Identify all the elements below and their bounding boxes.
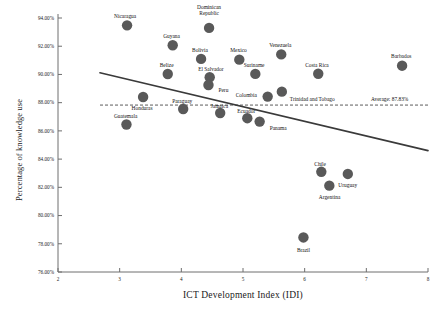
- data-point[interactable]: [324, 180, 334, 190]
- data-point-label: Uruguay: [338, 182, 357, 188]
- y-tick-label: 78.00%: [14, 241, 54, 247]
- data-point-label: Brazil: [297, 247, 310, 253]
- data-point-label: Honduras: [132, 105, 153, 111]
- data-point[interactable]: [138, 92, 148, 102]
- x-tick-label: 8: [416, 276, 440, 282]
- x-tick-label: 7: [354, 276, 378, 282]
- data-point-label: Peru: [218, 87, 228, 93]
- data-point-label: Bolivia: [192, 47, 208, 53]
- y-tick-label: 94.00%: [14, 15, 54, 21]
- scatter-chart: Percentage of knowledge use ICT Developm…: [0, 0, 444, 318]
- data-point[interactable]: [122, 20, 132, 30]
- data-point-label: Nicaragua: [114, 13, 136, 19]
- data-point-label: Jamaica: [211, 103, 228, 109]
- x-tick-label: 5: [231, 276, 255, 282]
- x-tick-label: 6: [293, 276, 317, 282]
- trend-line: [100, 73, 428, 151]
- y-tick-label: 88.00%: [14, 99, 54, 105]
- data-point-label: Suriname: [244, 62, 265, 68]
- y-tick-label: 80.00%: [14, 212, 54, 218]
- data-point[interactable]: [250, 69, 260, 79]
- data-point[interactable]: [316, 167, 326, 177]
- data-point-label: Mexico: [230, 47, 246, 53]
- data-point[interactable]: [204, 23, 214, 33]
- data-point[interactable]: [298, 232, 308, 242]
- data-point-label: Colombia: [236, 92, 257, 98]
- data-point-label: Belize: [160, 62, 174, 68]
- y-tick-label: 90.00%: [14, 71, 54, 77]
- data-point[interactable]: [262, 91, 272, 101]
- data-point-label: Barbados: [391, 53, 411, 59]
- x-tick-label: 2: [46, 276, 70, 282]
- data-point[interactable]: [196, 54, 206, 64]
- y-tick-label: 92.00%: [14, 43, 54, 49]
- data-point[interactable]: [343, 169, 353, 179]
- data-point[interactable]: [215, 108, 225, 118]
- y-tick-label: 84.00%: [14, 156, 54, 162]
- data-point[interactable]: [121, 119, 131, 129]
- data-point-label: Chile: [314, 161, 326, 167]
- y-tick-label: 82.00%: [14, 184, 54, 190]
- data-point-label: Costa Rica: [305, 62, 329, 68]
- data-point-label: DominicanRepublic: [197, 4, 221, 16]
- data-point[interactable]: [397, 60, 407, 70]
- data-point[interactable]: [203, 80, 213, 90]
- x-axis-label: ICT Development Index (IDI): [183, 290, 303, 300]
- data-point[interactable]: [277, 86, 287, 96]
- data-point-label: Ecuador: [237, 108, 255, 114]
- data-point[interactable]: [254, 116, 264, 126]
- data-point[interactable]: [242, 113, 252, 123]
- data-point[interactable]: [313, 69, 323, 79]
- x-tick-label: 3: [108, 276, 132, 282]
- chart-canvas: [0, 0, 444, 318]
- data-point-label: Trinidad and Tobago: [290, 96, 335, 102]
- y-tick-label: 76.00%: [14, 269, 54, 275]
- y-tick-label: 86.00%: [14, 128, 54, 134]
- data-point-label: Argentina: [319, 194, 340, 200]
- data-point[interactable]: [178, 104, 188, 114]
- x-tick-label: 4: [169, 276, 193, 282]
- data-point-label: Guatemala: [114, 113, 137, 119]
- data-point-label: Panama: [270, 125, 287, 131]
- data-point-label: Guyana: [163, 33, 180, 39]
- data-point-label: Venezuela: [269, 42, 291, 48]
- data-point[interactable]: [163, 69, 173, 79]
- data-point[interactable]: [276, 49, 286, 59]
- data-point[interactable]: [168, 40, 178, 50]
- data-point-label: El Salvador: [198, 66, 223, 72]
- data-point-label: Paraguay: [172, 98, 192, 104]
- average-annotation: Average: 87.83%: [371, 96, 408, 102]
